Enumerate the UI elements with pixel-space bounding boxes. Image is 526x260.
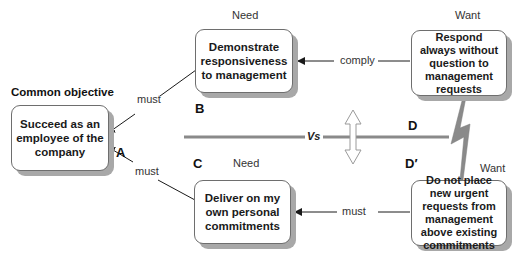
lightning-bolt-icon: [451, 97, 470, 180]
edge-b-to-a: [160, 70, 196, 96]
node-b-box: Demonstrate responsiveness to management: [195, 29, 293, 93]
node-dprime-text: Do not place new urgent requests from ma…: [416, 174, 502, 252]
edge-d-to-b-label: comply: [340, 54, 375, 66]
edge-b-to-a-label: must: [137, 93, 161, 105]
node-dprime-letter: D′: [405, 156, 418, 171]
node-d-box: Respond always without question to manag…: [411, 30, 507, 96]
node-c-header: Need: [233, 157, 259, 169]
node-d-letter: D: [408, 118, 417, 133]
node-b-text: Demonstrate responsiveness to management: [200, 40, 288, 82]
node-dprime-box: Do not place new urgent requests from ma…: [411, 180, 507, 246]
node-b-letter: B: [195, 101, 204, 116]
common-objective-label: Common objective: [11, 86, 114, 98]
node-b-header: Need: [232, 9, 258, 21]
node-a-box: Succeed as an employee of the company: [11, 105, 109, 171]
node-d-header: Want: [455, 9, 480, 21]
node-c-text: Deliver on my own personal commitments: [199, 191, 286, 233]
edge-dprime-to-c-label: must: [342, 205, 366, 217]
node-dprime-header: Want: [480, 162, 505, 174]
node-d-text: Respond always without question to manag…: [416, 31, 502, 96]
conflict-vs-label: Vs: [307, 130, 320, 142]
node-c-letter: C: [193, 156, 202, 171]
node-c-box: Deliver on my own personal commitments: [194, 180, 291, 244]
edge-c-to-a: [158, 180, 195, 200]
edge-c-to-a-label: must: [135, 165, 159, 177]
node-a-letter: A: [116, 145, 125, 160]
node-a-text: Succeed as an employee of the company: [16, 117, 104, 159]
